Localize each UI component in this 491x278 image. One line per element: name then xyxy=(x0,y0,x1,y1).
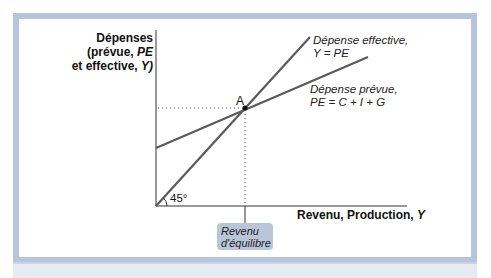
actual-line-label: Dépense effective, Y = PE xyxy=(313,34,408,60)
x-label-var: Y xyxy=(417,208,425,222)
equilibrium-income-label: Revenu d'équilibre xyxy=(217,223,273,250)
equilibrium-line2: d'équilibre xyxy=(221,237,273,249)
y-label-line1: Dépenses xyxy=(72,31,153,45)
y-axis-label: Dépenses (prévue, PE et effective, Y) xyxy=(72,31,153,73)
equilibrium-line1: Revenu xyxy=(221,225,273,237)
planned-line-label: Dépense prévue, PE = C + I + G xyxy=(310,83,398,109)
y-label-line2-var: PE xyxy=(137,45,153,59)
y-label-line2-text: (prévue, xyxy=(87,45,137,59)
y-label-line2: (prévue, PE xyxy=(72,45,153,59)
planned-line-equation: PE = C + I + G xyxy=(310,96,398,109)
y-label-line3-var: Y) xyxy=(141,59,153,73)
actual-expenditure-line xyxy=(156,37,310,206)
y-label-line3: et effective, Y) xyxy=(72,59,153,73)
actual-line-equation: Y = PE xyxy=(313,47,408,60)
x-label-text: Revenu, Production, xyxy=(297,208,417,222)
y-label-line3-text: et effective, xyxy=(72,59,141,73)
actual-line-name: Dépense effective, xyxy=(313,34,408,47)
angle-label: 45° xyxy=(170,192,187,204)
angle-arc xyxy=(164,198,168,206)
point-a-label: A xyxy=(236,94,244,108)
planned-line-name: Dépense prévue, xyxy=(310,83,398,96)
x-axis-label: Revenu, Production, Y xyxy=(297,208,425,222)
